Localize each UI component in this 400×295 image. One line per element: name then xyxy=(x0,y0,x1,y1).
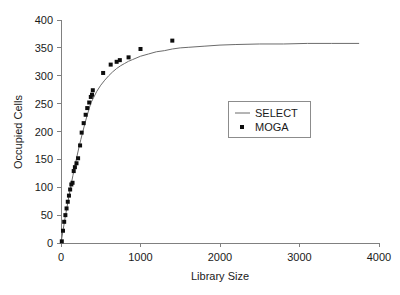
x-tick-label: 3000 xyxy=(287,251,311,263)
data-point-moga xyxy=(80,131,84,135)
data-point-moga xyxy=(170,39,174,43)
legend-swatch-moga-icon xyxy=(240,125,244,129)
chart-container: 050100150200250300350400 010002000300040… xyxy=(0,0,400,295)
data-point-moga xyxy=(85,106,89,110)
data-point-moga xyxy=(82,121,86,125)
data-point-moga xyxy=(72,169,76,173)
data-point-moga xyxy=(109,63,113,67)
data-point-moga xyxy=(76,156,80,160)
y-tick-label: 350 xyxy=(35,42,53,54)
data-point-moga xyxy=(62,220,66,224)
y-tick-label: 400 xyxy=(35,14,53,26)
data-point-moga xyxy=(139,47,143,51)
x-tick-label: 2000 xyxy=(208,251,232,263)
x-axis-ticks: 01000200030004000 xyxy=(58,243,391,263)
data-point-moga xyxy=(60,239,64,243)
data-point-moga xyxy=(68,187,72,191)
data-point-moga xyxy=(90,93,94,97)
data-point-moga xyxy=(65,206,69,210)
data-point-moga xyxy=(61,229,65,233)
x-axis-title: Library Size xyxy=(191,270,249,282)
data-point-moga xyxy=(91,88,95,92)
data-point-moga xyxy=(63,213,67,217)
legend-label-moga: MOGA xyxy=(255,121,289,133)
data-point-moga xyxy=(73,165,77,169)
y-tick-label: 300 xyxy=(35,70,53,82)
y-tick-label: 200 xyxy=(35,126,53,138)
data-point-moga xyxy=(118,58,122,62)
data-point-moga xyxy=(75,161,79,165)
scatter-line-chart: 050100150200250300350400 010002000300040… xyxy=(0,0,400,295)
data-point-moga xyxy=(127,55,131,59)
y-tick-label: 0 xyxy=(47,237,53,249)
data-point-moga xyxy=(101,71,105,75)
y-axis-ticks: 050100150200250300350400 xyxy=(35,14,61,249)
data-point-moga xyxy=(84,113,88,117)
chart-legend: SELECT MOGA xyxy=(228,101,310,137)
y-tick-label: 50 xyxy=(41,209,53,221)
x-tick-label: 1000 xyxy=(128,251,152,263)
data-point-moga xyxy=(78,143,82,147)
y-tick-label: 100 xyxy=(35,181,53,193)
series-select-line xyxy=(61,43,359,243)
x-tick-label: 4000 xyxy=(367,251,391,263)
data-point-moga xyxy=(66,200,70,204)
data-point-moga xyxy=(71,181,75,185)
y-axis-title: Occupied Cells xyxy=(12,95,24,169)
y-tick-label: 250 xyxy=(35,98,53,110)
x-tick-label: 0 xyxy=(58,251,64,263)
legend-label-select: SELECT xyxy=(255,107,298,119)
y-tick-label: 150 xyxy=(35,153,53,165)
data-point-moga xyxy=(87,101,91,105)
data-point-moga xyxy=(67,194,71,198)
series-moga-markers xyxy=(60,39,175,244)
